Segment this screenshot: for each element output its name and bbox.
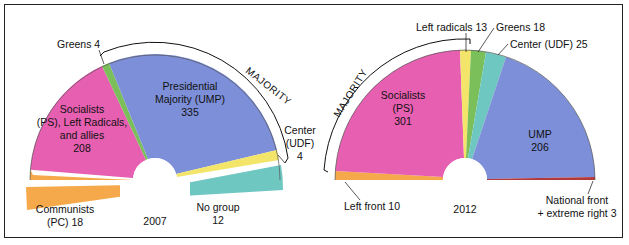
- chart-2007: MAJORITY 2007 Greens 4 Presidential Majo…: [26, 38, 316, 228]
- label-leftfront-2012: Left front 10: [344, 200, 400, 212]
- label-center-2007-l2: (UDF): [286, 137, 315, 149]
- label-nf-2012-l1: National front: [546, 194, 609, 206]
- label-soc-2007-l1: Socialists: [60, 103, 104, 115]
- label-soc-2007-l2: (PS), Left Radicals,: [37, 116, 127, 128]
- year-2012: 2012: [453, 203, 477, 215]
- label-nogroup-2007-l1: No group: [196, 201, 239, 213]
- parliament-charts: MAJORITY 2007 Greens 4 Presidential Majo…: [0, 0, 629, 245]
- label-soc-2012-l3: 301: [394, 115, 412, 127]
- label-ump-2012-l2: 206: [531, 141, 549, 153]
- label-soc-2007-l4: 208: [73, 142, 91, 154]
- label-soc-2012-l2: (PS): [393, 102, 414, 114]
- year-2007: 2007: [143, 215, 167, 227]
- label-soc-2007-l3: and allies: [60, 129, 104, 141]
- label-soc-2012-l1: Socialists: [381, 89, 425, 101]
- chart-2012: MAJORITY 2012 Left radicals 13 Greens 18…: [324, 21, 617, 219]
- label-greens-2007: Greens 4: [57, 38, 100, 50]
- label-ump-2007-l2: Majority (UMP): [155, 93, 225, 105]
- label-ump-2007-l1: Presidential: [163, 80, 218, 92]
- label-leftrad-2012: Left radicals 13: [416, 21, 487, 33]
- label-nogroup-2007-l2: 12: [212, 214, 224, 226]
- label-comm-2007-l1: Communists: [36, 203, 94, 215]
- label-ump-2012-l1: UMP: [528, 128, 551, 140]
- label-center-2007-l3: 4: [297, 150, 303, 162]
- label-center-2007-l1: Center: [284, 124, 316, 136]
- label-nf-2012-l2: + extreme right 3: [537, 207, 616, 219]
- label-comm-2007-l2: (PC) 18: [47, 216, 83, 228]
- label-ump-2007-l3: 335: [181, 106, 199, 118]
- label-greens-2012: Greens 18: [496, 21, 545, 33]
- label-center-2012: Center (UDF) 25: [510, 38, 588, 50]
